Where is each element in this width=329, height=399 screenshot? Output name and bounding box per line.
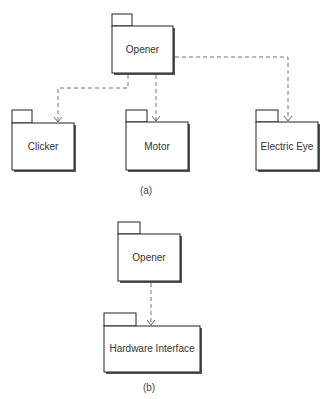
caption-a: (a) [140, 185, 152, 196]
package-tab [112, 14, 132, 26]
package-diagram: Opener Clicker Motor Electric Eye [0, 0, 329, 399]
dependency-opener-motor [152, 75, 160, 121]
package-opener-a[interactable]: Opener [112, 14, 175, 75]
package-tab [118, 222, 140, 234]
package-tab [12, 110, 32, 123]
package-label: Opener [132, 252, 166, 263]
dependency-line [58, 75, 128, 122]
package-clicker[interactable]: Clicker [12, 110, 76, 172]
package-label: Electric Eye [261, 141, 314, 152]
package-label: Motor [144, 141, 170, 152]
package-tab [126, 110, 147, 122]
package-opener-b[interactable]: Opener [118, 222, 182, 283]
package-label: Hardware Interface [109, 343, 194, 354]
package-tab [104, 313, 136, 326]
diagram-b: Opener Hardware Interface (b) [104, 222, 202, 393]
package-motor[interactable]: Motor [126, 110, 190, 172]
diagram-a: Opener Clicker Motor Electric Eye [12, 14, 320, 196]
package-tab [256, 110, 278, 122]
package-label: Clicker [28, 141, 59, 152]
caption-b: (b) [143, 382, 155, 393]
dependency-opener-clicker [54, 75, 128, 122]
package-label: Opener [126, 44, 160, 55]
dependency-opener-hardware-interface [147, 283, 155, 325]
